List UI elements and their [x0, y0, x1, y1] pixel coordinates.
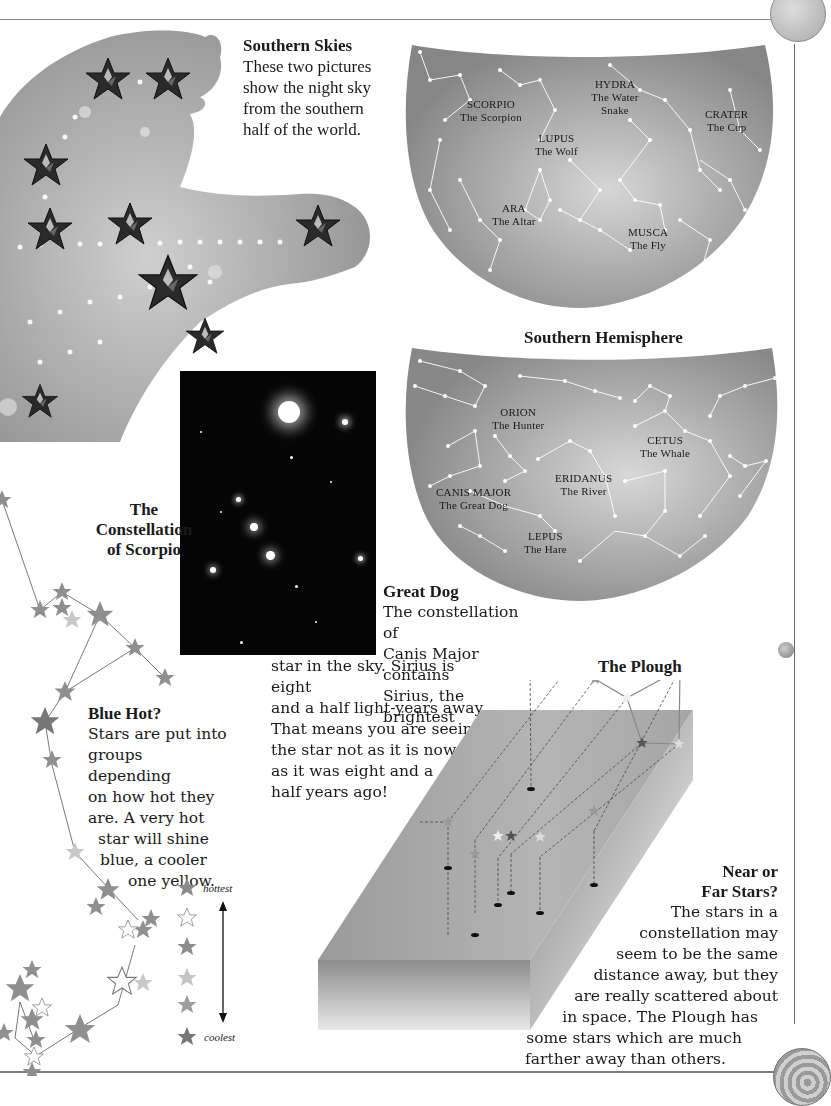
near-far-line: distance away, but they [520, 965, 778, 986]
constellation-label-hydra: HYDRAThe Water Snake [580, 78, 650, 117]
right-rule [794, 44, 795, 1024]
near-far-line: in space. The Plough has [520, 1007, 778, 1028]
scorpio-heading-line: Constellation [86, 520, 202, 540]
small-globe-icon [778, 642, 794, 658]
scorpio-heading-line: The [86, 500, 202, 520]
near-far-line: some stars which are much [520, 1028, 778, 1049]
great-dog-heading: Great Dog [383, 582, 533, 602]
sky-map-southern-skies: SCORPIOThe Scorpion HYDRAThe Water Snake… [400, 40, 778, 308]
constellation-label-eridanus: ERIDANUSThe River [555, 472, 612, 498]
southern-skies-line: half of the world. [243, 119, 403, 140]
scorpio-heading-line: of Scorpio [86, 540, 202, 560]
legend-coolest-label: coolest [204, 1031, 235, 1043]
globe-icon [770, 0, 826, 42]
near-far-block: Near or Far Stars? The stars in a conste… [520, 862, 778, 1070]
blue-hot-line: are. A very hot [88, 808, 228, 829]
southern-skies-block: Southern Skies These two pictures show t… [243, 36, 403, 140]
blue-hot-line: on how hot they [88, 787, 228, 808]
near-far-heading-line: Near or [520, 862, 778, 882]
blue-hot-line: Stars are put into [88, 724, 228, 745]
shell-icon [773, 1048, 831, 1106]
sky-map-southern-hemisphere: Southern Hemisphere [400, 326, 778, 601]
near-far-line: constellation may [520, 923, 778, 944]
constellation-label-canis-major: CANIS MAJORThe Great Dog [436, 486, 511, 512]
southern-skies-line: show the night sky [243, 77, 403, 98]
blue-hot-line: blue, a cooler [88, 850, 228, 871]
near-far-line: seem to be the same [520, 944, 778, 965]
near-far-heading-line: Far Stars? [520, 882, 778, 902]
top-rule [0, 19, 775, 20]
near-far-line: farther away than others. [520, 1049, 778, 1070]
southern-skies-line: These two pictures [243, 56, 403, 77]
constellation-label-orion: ORIONThe Hunter [492, 406, 544, 432]
legend-hottest-label: hottest [203, 882, 232, 894]
southern-skies-line: from the southern [243, 98, 403, 119]
blue-hot-line: groups depending [88, 745, 228, 787]
constellation-label-lupus: LUPUSThe Wolf [535, 132, 578, 158]
scorpio-heading: The Constellation of Scorpio [86, 500, 202, 560]
sky-map-2-shape [400, 326, 778, 601]
near-far-line: are really scattered about [520, 986, 778, 1007]
constellation-label-cetus: CETUSThe Whale [640, 434, 690, 460]
constellation-label-musca: MUSCAThe Fly [628, 226, 668, 252]
southern-skies-heading: Southern Skies [243, 36, 403, 56]
great-dog-line: The constellation of [383, 602, 533, 644]
plough-title: The Plough [598, 657, 682, 677]
constellation-label-crater: CRATERThe Cup [705, 108, 748, 134]
blue-hot-heading: Blue Hot? [88, 704, 228, 724]
legend-stars [176, 877, 256, 1047]
temperature-legend: hottest coolest [176, 877, 256, 1047]
constellation-label-lepus: LEPUSThe Hare [524, 530, 567, 556]
blue-hot-block: Blue Hot? Stars are put into groups depe… [88, 704, 228, 892]
constellation-label-ara: ARAThe Altar [492, 202, 536, 228]
near-far-line: The stars in a [520, 902, 778, 923]
blue-hot-line: star will shine [88, 829, 228, 850]
constellation-label-scorpio: SCORPIOThe Scorpion [460, 98, 522, 124]
